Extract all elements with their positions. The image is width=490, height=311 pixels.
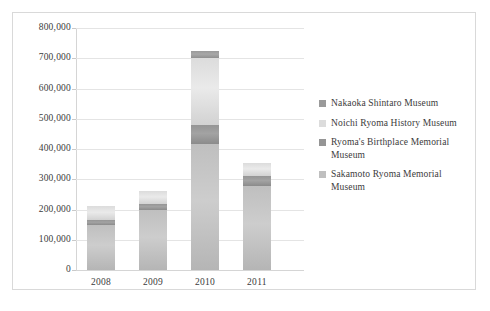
bar-group[interactable] xyxy=(243,28,271,270)
bar-segment[interactable] xyxy=(139,204,167,209)
bar-segment[interactable] xyxy=(139,210,167,271)
legend-label: Nakaoka Shintaro Museum xyxy=(331,98,438,108)
legend-label: Noichi Ryoma History Museum xyxy=(331,118,457,128)
y-axis-tick xyxy=(72,240,76,241)
y-axis-tick-label: 600,000 xyxy=(15,84,71,94)
y-axis-tick xyxy=(72,270,76,271)
y-axis-tick-label: 300,000 xyxy=(15,174,71,184)
bar-segment[interactable] xyxy=(87,225,115,270)
bar-segment[interactable] xyxy=(191,51,219,59)
legend-swatch-icon xyxy=(319,171,326,178)
x-axis-tick-label: 2011 xyxy=(231,277,283,287)
legend-swatch-icon xyxy=(319,120,326,127)
bar-group[interactable] xyxy=(139,28,167,270)
bar-segment[interactable] xyxy=(139,191,167,204)
x-axis-line xyxy=(76,270,304,271)
y-axis-tick-label: 700,000 xyxy=(15,53,71,63)
legend-item[interactable]: Nakaoka Shintaro Museum xyxy=(319,97,469,110)
bar-segment[interactable] xyxy=(191,144,219,270)
bar-segment[interactable] xyxy=(243,176,271,186)
bar-segment[interactable] xyxy=(243,186,271,270)
y-axis-tick-label: 200,000 xyxy=(15,205,71,215)
legend-label: Sakamoto Ryoma Memorial Museum xyxy=(331,169,442,192)
x-axis-tick-label: 2008 xyxy=(75,277,127,287)
y-axis-tick-label: 100,000 xyxy=(15,235,71,245)
chart-legend: Nakaoka Shintaro MuseumNoichi Ryoma Hist… xyxy=(319,97,469,200)
y-axis-tick xyxy=(72,89,76,90)
y-axis-tick-label: 400,000 xyxy=(15,144,71,154)
bar-group[interactable] xyxy=(191,28,219,270)
legend-item[interactable]: Sakamoto Ryoma Memorial Museum xyxy=(319,168,469,193)
x-axis-tick-label: 2009 xyxy=(127,277,179,287)
y-axis-tick xyxy=(72,58,76,59)
x-axis-tick-label: 2010 xyxy=(179,277,231,287)
legend-swatch-icon xyxy=(319,139,326,146)
legend-label: Ryoma's Birthplace Memorial Museum xyxy=(331,137,449,160)
y-axis-tick-label: 800,000 xyxy=(15,23,71,33)
y-axis-tick-label: 500,000 xyxy=(15,114,71,124)
bar-group[interactable] xyxy=(87,28,115,270)
y-axis-tick xyxy=(72,179,76,180)
y-axis-tick-label: 0 xyxy=(15,265,71,275)
y-axis-tick xyxy=(72,149,76,150)
bar-segment[interactable] xyxy=(191,125,219,144)
legend-item[interactable]: Noichi Ryoma History Museum xyxy=(319,117,469,130)
y-axis-tick xyxy=(72,28,76,29)
y-axis-tick xyxy=(72,119,76,120)
bar-segment[interactable] xyxy=(191,58,219,125)
bar-segment[interactable] xyxy=(87,206,115,220)
plot-area xyxy=(76,28,304,270)
legend-item[interactable]: Ryoma's Birthplace Memorial Museum xyxy=(319,136,469,161)
bar-segment[interactable] xyxy=(243,163,271,177)
bar-segment[interactable] xyxy=(87,220,115,225)
chart-frame: 800,000700,000600,000500,000400,000300,0… xyxy=(12,12,476,290)
y-axis-tick xyxy=(72,210,76,211)
legend-swatch-icon xyxy=(319,100,326,107)
y-axis-labels: 800,000700,000600,000500,000400,000300,0… xyxy=(13,13,71,291)
